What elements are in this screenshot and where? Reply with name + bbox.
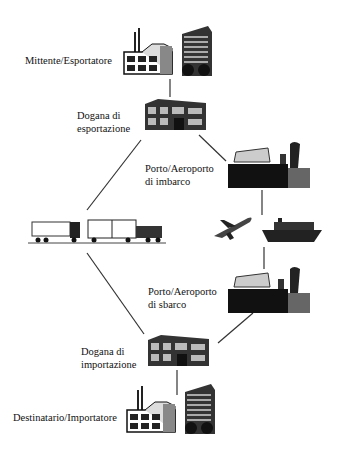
export-customs-label: Dogana di esportazione	[77, 109, 130, 135]
factory-office-icon	[125, 382, 220, 437]
factory-office-icon	[122, 24, 217, 79]
trucks-icon	[28, 218, 166, 246]
airplane-icon	[210, 212, 256, 242]
port-embark-label: Porto/Aeroporto di imbarco	[145, 162, 214, 188]
port-icon	[228, 265, 312, 315]
edge-customs-port	[199, 135, 226, 161]
customs-building-icon	[146, 334, 211, 367]
port-icon	[228, 140, 312, 190]
import-customs-label: Dogana di importazione	[81, 345, 136, 371]
edge-road-customs	[87, 253, 144, 334]
customs-building-icon	[143, 98, 208, 131]
port-disembark-label: Porto/Aeroporto di sbarco	[148, 285, 217, 311]
importer-label: Destinatario/Importatore	[13, 411, 117, 424]
edge-customs-road	[87, 140, 141, 210]
exporter-label: Mittente/Esportatore	[25, 54, 112, 67]
edge-port-customs	[218, 313, 253, 343]
ship-icon	[260, 214, 324, 244]
